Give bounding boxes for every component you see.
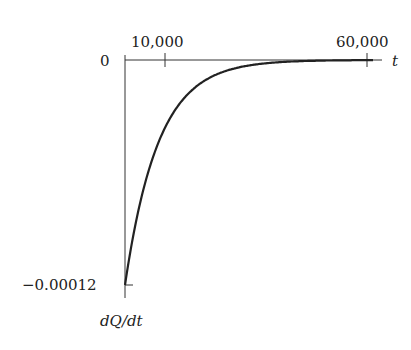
y-tick-label-min: −0.00012 [22, 276, 97, 294]
x-tick-label-10000: 10,000 [131, 33, 184, 51]
y-axis-label: dQ/dt [100, 312, 144, 330]
x-tick-label-60000: 60,000 [336, 33, 389, 51]
chart: 10,000 60,000 0 −0.00012 t dQ/dt [0, 0, 411, 350]
data-curve [125, 60, 373, 285]
y-tick-label-zero: 0 [100, 52, 110, 70]
x-axis-label: t [392, 52, 399, 70]
